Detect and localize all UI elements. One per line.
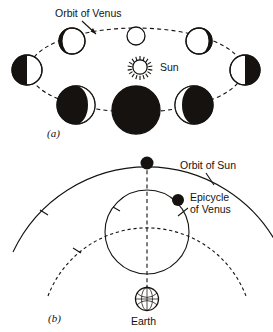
sun-with-rays-icon [128,56,153,80]
epicycle-of-venus-label-line2: of Venus [190,203,231,215]
sun-label: Sun [160,61,179,73]
sun-orbit-direction-tick [40,210,48,215]
orbit-of-sun-label: Orbit of Sun [180,159,236,171]
sun-marker-dot [141,157,154,170]
epicycle-of-venus-leader-line [178,208,188,216]
venus-phase-top [127,27,145,45]
venus-phase-upper-left [59,28,85,54]
panel-a-label: (a) [47,127,60,140]
earth-label: Earth [131,315,156,327]
panel-b: Orbit of Sun Epicycle of Venus Earth (b) [13,157,273,328]
panel-b-label: (b) [48,312,61,325]
venus-phase-right [230,55,260,85]
orbit-of-venus-label: Orbit of Venus [55,7,122,19]
globe-icon [136,285,159,311]
venus-phase-upper-right [186,28,212,54]
venus-phase-left [12,55,42,85]
epicycle-direction-tick [113,207,120,211]
inner-arc-direction-tick [73,248,81,253]
panel-a: Sun [12,7,260,140]
venus-phase-lower-left [57,86,95,124]
sun-orbit-arc [13,167,273,252]
venus-marker-dot [172,194,184,206]
venus-phase-bottom [112,86,160,134]
epicycle-of-venus-label-line1: Epicycle [190,191,229,203]
figure-root: Sun [0,0,273,332]
venus-phase-lower-right [175,86,213,124]
astronomy-figure: Sun [0,0,273,332]
